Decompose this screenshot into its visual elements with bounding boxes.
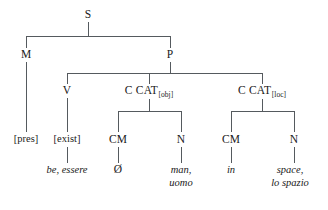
edge-ccat-obj-to-n [181,111,182,132]
edge-m-to-pres [26,62,27,132]
edge-s-to-m [26,36,27,48]
node-ccat-obj-base: C CAT [125,84,158,96]
edge-ccat-loc-to-n [294,111,295,132]
edge-n-loc-to-form [294,147,295,163]
node-m: M [21,48,31,60]
edge-ccat-loc-stem [262,99,263,111]
node-exist: [exist] [54,133,81,145]
edge-bar-s-children [26,36,171,37]
edge-bar-p-children [67,73,263,74]
node-p: P [167,48,173,60]
leaf-verb-forms: be, essere [46,164,87,177]
leaf-n-loc-form: space, lo spazio [271,164,309,189]
edge-ccat-obj-stem [149,99,150,111]
leaf-n-obj-line2: uomo [169,177,192,188]
edge-v-to-exist [67,98,68,132]
node-n-obj: N [177,133,185,145]
edge-p-to-ccat-obj [149,73,150,84]
node-n-loc: N [290,133,298,145]
edge-s-stem [88,22,89,36]
node-v: V [63,84,71,96]
leaf-n-obj-form: man, uomo [169,164,192,189]
node-ccat-obj-subscript: [obj] [158,90,173,99]
edge-p-stem [170,62,171,73]
edge-cm-obj-to-form [118,147,119,163]
edge-exist-to-verb-forms [67,147,68,163]
edge-ccat-loc-to-cm [231,111,232,132]
node-cm-loc: CM [222,133,240,145]
leaf-n-loc-line2: lo spazio [271,177,309,188]
node-ccat-loc-base: C CAT [238,84,271,96]
edge-s-to-p [170,36,171,48]
leaf-n-loc-line1: space, [277,164,304,175]
leaf-cm-loc-form: in [227,164,235,177]
edge-bar-ccat-obj-children [118,111,181,112]
node-cm-obj: CM [109,133,127,145]
leaf-cm-obj-form: Ø [114,163,122,176]
node-s: S [85,8,91,20]
syntactic-tree-diagram: S M [pres] P V [exist] be, essere C CAT[… [0,0,328,210]
edge-ccat-obj-to-cm [118,111,119,132]
edge-p-to-v [67,73,68,84]
node-ccat-loc-subscript: [loc] [271,90,286,99]
edge-cm-loc-to-form [231,147,232,163]
edge-p-to-ccat-loc [262,73,263,84]
leaf-n-obj-line1: man, [171,164,192,175]
edge-n-obj-to-form [181,147,182,163]
edge-bar-ccat-loc-children [231,111,294,112]
node-pres: [pres] [14,133,39,145]
